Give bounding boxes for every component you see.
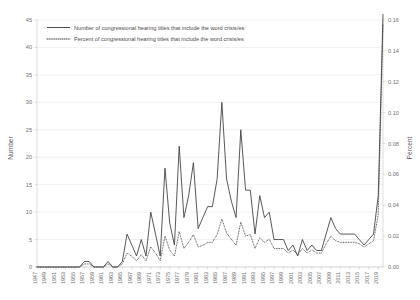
x-axis-tick-label: 2015 [354,272,360,284]
y-axis-right: 0.000.020.040.060.080.100.120.140.16 Per… [383,17,413,270]
x-axis-tick-label: 1989 [231,272,237,284]
y-axis-right-tick-label: 0.16 [388,17,399,23]
x-axis-tick-label: 2003 [297,272,303,284]
y-axis-right-tick-label: 0.02 [388,233,399,239]
legend-label-percent: Percent of congressional hearing titles … [74,36,244,42]
x-axis-tick-label: 1947 [32,272,38,284]
y-axis-left-tick-label: 45 [26,17,32,23]
y-axis-left-tick-label: 20 [26,154,32,160]
x-axis-tick-label: 1965 [117,272,123,284]
left-axis-title: Number [7,135,14,159]
y-axis-right-tick-label: 0.06 [388,171,399,177]
x-axis: 1947194919511953195519571959196119631965… [32,267,383,284]
x-axis-tick-label: 1995 [260,272,266,284]
x-axis-tick-label: 1997 [269,272,275,284]
y-axis-left: 051015202530354045 Number [7,17,37,270]
x-axis-tick-label: 1953 [60,272,66,284]
x-axis-tick-label: 2001 [288,272,294,284]
x-axis-tick-label: 2005 [307,272,313,284]
x-axis-tick-label: 2019 [373,272,379,284]
x-axis-tick-label: 1977 [174,272,180,284]
y-axis-left-tick-label: 0 [29,264,32,270]
y-axis-left-tick-label: 15 [26,182,32,188]
dual-axis-line-chart: 051015202530354045 Number 0.000.020.040.… [0,0,420,300]
x-axis-tick-label: 2007 [316,272,322,284]
x-axis-tick-label: 1957 [79,272,85,284]
x-axis-tick-label: 1963 [108,272,114,284]
x-axis-tick-label: 1973 [155,272,161,284]
x-axis-tick-label: 1949 [41,272,47,284]
x-axis-tick-label: 1975 [165,272,171,284]
x-axis-tick-label: 1985 [212,272,218,284]
x-axis-tick-label: 1983 [203,272,209,284]
x-axis-tick-label: 1967 [127,272,133,284]
x-axis-tick-label: 1971 [146,272,152,284]
y-axis-right-tick-label: 0.04 [388,202,399,208]
legend: Number of congressional hearing titles t… [47,25,245,43]
right-axis-title: Percent [406,136,413,159]
x-axis-tick-label: 1961 [98,272,104,284]
series-percent-line [37,25,383,267]
y-axis-left-tick-label: 40 [26,44,32,50]
y-axis-right-tick-label: 0.08 [388,141,399,147]
chart-container: 051015202530354045 Number 0.000.020.040.… [0,0,420,300]
x-axis-tick-label: 1979 [184,272,190,284]
x-axis-tick-label: 1955 [70,272,76,284]
x-axis-tick-label: 2013 [345,272,351,284]
y-axis-left-tick-label: 25 [26,127,32,133]
y-axis-left-tick-label: 35 [26,72,32,78]
x-axis-tick-label: 1987 [222,272,228,284]
x-axis-tick-label: 1951 [51,272,57,284]
y-axis-left-tick-label: 5 [29,237,32,243]
x-axis-tick-label: 2017 [364,272,370,284]
y-axis-right-tick-label: 0.10 [388,110,399,116]
y-axis-right-tick-label: 0.12 [388,79,399,85]
x-axis-tick-label: 2011 [335,272,341,284]
gridlines [37,20,383,267]
series-group [37,15,383,267]
legend-label-number: Number of congressional hearing titles t… [74,25,245,31]
y-axis-right-tick-label: 0.14 [388,48,399,54]
x-axis-tick-label: 1999 [278,272,284,284]
y-axis-left-tick-label: 30 [26,99,32,105]
y-axis-left-tick-label: 10 [26,209,32,215]
x-axis-tick-label: 1969 [136,272,142,284]
x-axis-tick-label: 1991 [241,272,247,284]
x-axis-tick-label: 2009 [326,272,332,284]
x-axis-tick-label: 1981 [193,272,199,284]
x-axis-tick-label: 1959 [89,272,95,284]
y-axis-right-tick-label: 0.00 [388,264,399,270]
x-axis-tick-label: 1993 [250,272,256,284]
series-number-line [37,15,383,267]
